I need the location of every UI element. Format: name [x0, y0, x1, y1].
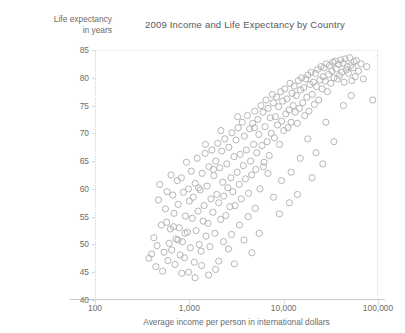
y-tick-label: 50: [65, 239, 89, 249]
data-point: [264, 139, 270, 145]
data-point: [297, 155, 303, 161]
data-point: [278, 177, 284, 183]
data-point: [213, 158, 219, 164]
data-point: [194, 155, 200, 161]
y-tick-mark: [92, 217, 95, 218]
data-point: [241, 237, 247, 243]
y-axis-label-line1: Life expectancy: [14, 14, 112, 25]
data-point: [202, 150, 208, 156]
data-point: [199, 262, 205, 268]
data-point: [155, 197, 161, 203]
data-point: [245, 190, 251, 196]
scatter-points: [95, 50, 378, 300]
data-point: [238, 196, 244, 202]
data-point: [249, 172, 255, 178]
y-tick-label: 55: [65, 212, 89, 222]
x-tick-mark: [284, 300, 285, 306]
data-point: [266, 152, 272, 158]
data-point: [201, 202, 207, 208]
data-point: [341, 79, 347, 85]
data-point: [216, 200, 222, 206]
data-point: [294, 191, 300, 197]
data-point: [214, 191, 220, 197]
data-point: [251, 141, 257, 147]
data-point: [210, 209, 216, 215]
data-point: [195, 208, 201, 214]
data-point: [182, 213, 188, 219]
data-point: [256, 230, 262, 236]
data-point: [300, 100, 306, 106]
data-point: [183, 159, 189, 165]
y-tick-mark: [92, 50, 95, 51]
data-point: [309, 91, 315, 97]
data-point: [202, 141, 208, 147]
data-point: [260, 164, 266, 170]
data-point: [219, 148, 225, 154]
data-point: [151, 235, 157, 241]
data-point: [199, 170, 205, 176]
data-point: [252, 108, 258, 114]
data-point: [348, 92, 354, 98]
x-tick-mark: [95, 300, 96, 306]
data-point: [279, 118, 285, 124]
data-point: [270, 194, 276, 200]
data-point: [192, 275, 198, 281]
data-point: [245, 214, 251, 220]
data-point: [255, 116, 261, 122]
data-point: [154, 242, 160, 248]
data-point: [161, 249, 167, 255]
y-tick-label: 85: [65, 45, 89, 55]
data-point: [288, 169, 294, 175]
data-point: [244, 112, 250, 118]
data-point: [309, 175, 315, 181]
data-point: [331, 139, 337, 145]
data-point: [349, 77, 355, 83]
data-point: [193, 227, 199, 233]
data-point: [216, 258, 222, 264]
data-point: [228, 231, 234, 237]
data-point: [186, 198, 192, 204]
data-point: [164, 219, 170, 225]
data-point: [187, 245, 193, 251]
y-axis-label: Life expectancy in years: [14, 14, 112, 36]
data-point: [213, 266, 219, 272]
data-point: [265, 170, 271, 176]
data-point: [258, 102, 264, 108]
data-point: [286, 200, 292, 206]
y-tick-mark: [92, 189, 95, 190]
data-point: [263, 97, 269, 103]
data-point: [204, 183, 210, 189]
data-point: [262, 124, 268, 130]
x-axis-label: Average income per person in internation…: [95, 317, 378, 327]
data-point: [215, 140, 221, 146]
data-point: [306, 108, 312, 114]
data-point: [160, 268, 166, 274]
data-point: [254, 150, 260, 156]
data-point: [247, 158, 253, 164]
data-point: [355, 68, 361, 74]
data-point: [231, 261, 237, 267]
data-point: [221, 193, 227, 199]
data-point: [276, 211, 282, 217]
y-tick-mark: [92, 161, 95, 162]
data-point: [166, 240, 172, 246]
data-point: [165, 257, 171, 263]
y-tick-mark: [92, 272, 95, 273]
data-point: [229, 130, 235, 136]
data-point: [168, 172, 174, 178]
x-tick-mark: [378, 300, 379, 306]
data-point: [340, 102, 346, 108]
data-point: [189, 215, 195, 221]
data-point: [220, 239, 226, 245]
data-point: [223, 212, 229, 218]
data-point: [212, 230, 218, 236]
data-point: [265, 105, 271, 111]
data-point: [172, 261, 178, 267]
data-point: [226, 144, 232, 150]
data-point: [220, 179, 226, 185]
data-point: [237, 151, 243, 157]
y-tick-mark: [92, 106, 95, 107]
data-point: [370, 97, 376, 103]
plot-area: [95, 50, 378, 300]
data-point: [233, 137, 239, 143]
